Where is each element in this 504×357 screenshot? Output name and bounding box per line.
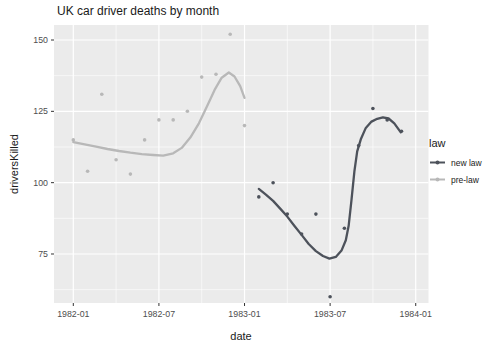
data-point-pre-law bbox=[157, 118, 161, 122]
y-tick-label: 75 bbox=[38, 249, 48, 259]
legend-label-pre-law: pre-law bbox=[451, 175, 479, 185]
data-point-pre-law bbox=[214, 72, 218, 76]
y-tick-label: 125 bbox=[33, 106, 48, 116]
legend-item-new-law: new law bbox=[429, 154, 482, 171]
data-point-new-law bbox=[271, 181, 275, 185]
data-point-pre-law bbox=[72, 138, 76, 142]
data-point-new-law bbox=[343, 227, 347, 231]
data-point-pre-law bbox=[228, 33, 232, 37]
data-point-pre-law bbox=[200, 75, 204, 79]
data-point-pre-law bbox=[86, 170, 90, 174]
data-point-pre-law bbox=[100, 92, 104, 96]
data-point-new-law bbox=[371, 107, 375, 111]
data-point-new-law bbox=[328, 295, 332, 299]
y-tick-label: 150 bbox=[33, 35, 48, 45]
x-tick-label: 1982-01 bbox=[57, 309, 89, 319]
y-tick-label: 100 bbox=[33, 178, 48, 188]
legend-title: law bbox=[429, 137, 482, 149]
data-point-pre-law bbox=[114, 158, 118, 162]
y-axis-title: driversKilled bbox=[8, 134, 20, 194]
data-point-new-law bbox=[385, 118, 389, 122]
data-point-new-law bbox=[300, 232, 304, 236]
x-tick-label: 1984-01 bbox=[400, 309, 432, 319]
data-point-pre-law bbox=[171, 118, 175, 122]
data-point-new-law bbox=[286, 212, 290, 216]
legend-key-new-law-icon bbox=[429, 154, 446, 171]
x-axis-title: date bbox=[230, 330, 251, 342]
data-point-pre-law bbox=[243, 124, 247, 128]
x-tick-label: 1983-01 bbox=[228, 309, 260, 319]
legend-item-pre-law: pre-law bbox=[429, 171, 482, 188]
x-axis: 1982-011982-071983-011983-071984-01 bbox=[57, 303, 432, 319]
data-point-new-law bbox=[314, 212, 318, 216]
data-point-new-law bbox=[257, 195, 261, 199]
x-tick-label: 1983-07 bbox=[314, 309, 346, 319]
y-axis: 75100125150 bbox=[33, 35, 54, 259]
data-point-new-law bbox=[400, 130, 404, 134]
panel-background bbox=[54, 25, 429, 303]
x-tick-label: 1982-07 bbox=[143, 309, 175, 319]
legend-key-pre-law-icon bbox=[429, 171, 446, 188]
data-point-new-law bbox=[357, 144, 361, 148]
data-point-pre-law bbox=[186, 110, 190, 114]
chart-figure: UK car driver deaths by month 1982-01198… bbox=[0, 0, 504, 357]
legend: law new law pre-law bbox=[429, 137, 482, 188]
legend-label-new-law: new law bbox=[451, 158, 482, 168]
data-point-pre-law bbox=[129, 172, 133, 176]
data-point-pre-law bbox=[143, 138, 147, 142]
